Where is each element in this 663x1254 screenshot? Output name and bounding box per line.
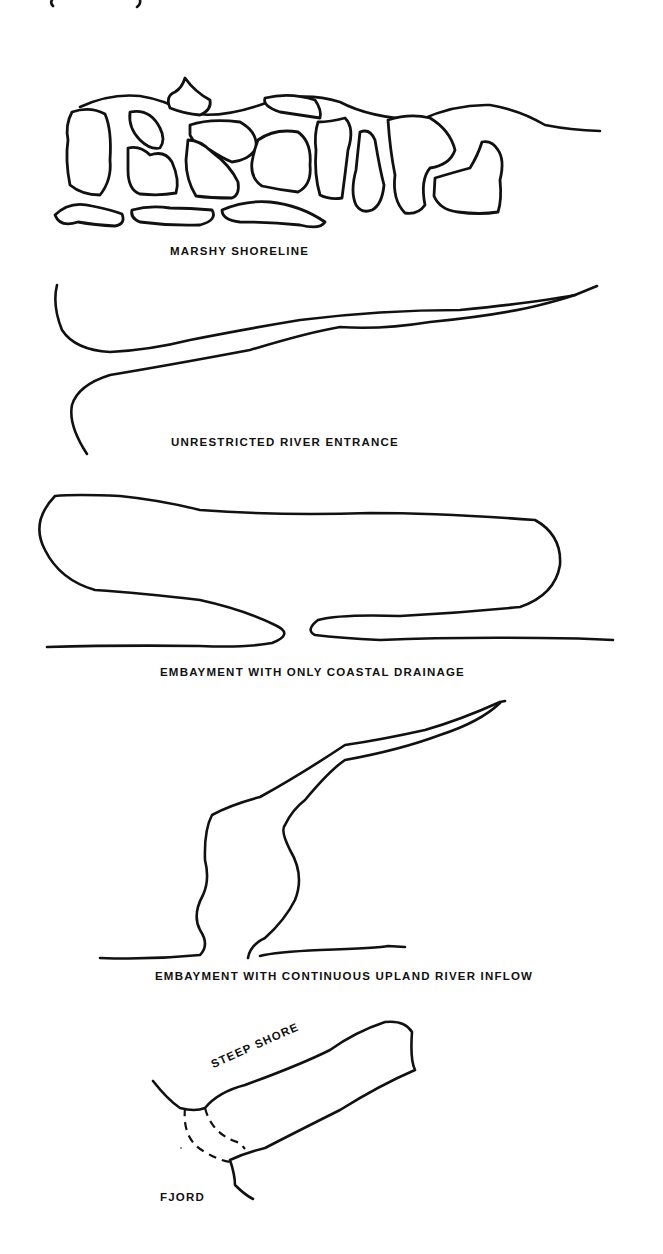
caption-upland-river-inflow: EMBAYMENT WITH CONTINUOUS UPLAND RIVER I… bbox=[155, 970, 533, 982]
top-fragment-marks bbox=[51, 0, 140, 7]
marshy-shoreline-drawing bbox=[55, 78, 600, 227]
shoreline-types-diagram bbox=[0, 0, 663, 1254]
caption-marshy-shoreline: MARSHY SHORELINE bbox=[170, 245, 309, 257]
coastal-drainage-drawing bbox=[39, 495, 613, 647]
caption-unrestricted-river-entrance: UNRESTRICTED RIVER ENTRANCE bbox=[171, 436, 399, 448]
river-entrance-drawing bbox=[55, 285, 597, 454]
caption-coastal-drainage: EMBAYMENT WITH ONLY COASTAL DRAINAGE bbox=[160, 666, 465, 678]
caption-fjord: FJORD bbox=[160, 1191, 205, 1203]
upland-river-drawing bbox=[100, 701, 505, 959]
fjord-drawing bbox=[153, 1022, 415, 1199]
